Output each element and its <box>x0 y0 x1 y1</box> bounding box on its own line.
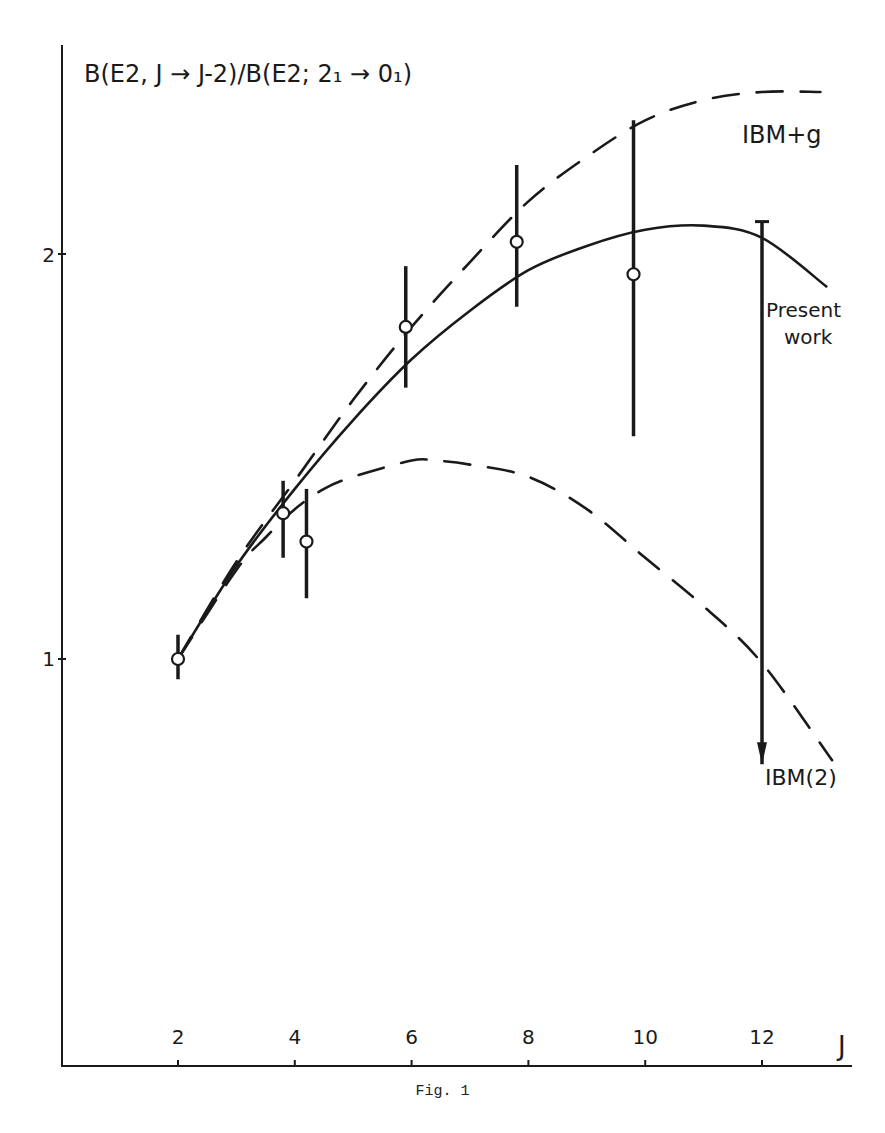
figure-caption: Fig. 1 <box>0 1083 885 1100</box>
curve-present-work <box>178 225 826 659</box>
data-point <box>172 653 184 665</box>
data-point <box>277 507 289 519</box>
label-work: work <box>784 325 833 349</box>
data-points <box>172 120 769 764</box>
x-tick-label: 2 <box>172 1025 185 1049</box>
curve-ibm-g <box>178 91 820 659</box>
axes <box>61 45 852 1066</box>
x-tick-label: 10 <box>632 1025 657 1049</box>
data-point <box>511 236 523 248</box>
chart: B(E2, J → J-2)/B(E2; 2₁ → 0₁) 2 1 246810… <box>0 0 885 1133</box>
label-ibm-g: IBM+g <box>742 121 822 149</box>
data-point <box>300 536 312 548</box>
arrow-down-icon <box>757 742 767 764</box>
x-tick-label: 4 <box>288 1025 301 1049</box>
x-tick-label: 8 <box>522 1025 535 1049</box>
label-ibm2: IBM(2) <box>765 765 837 790</box>
label-present: Present <box>766 298 841 322</box>
x-tick-label: 6 <box>405 1025 418 1049</box>
y-tick-label-2: 2 <box>42 243 55 267</box>
x-axis-label: J <box>836 1031 846 1061</box>
x-tick-label: 12 <box>749 1025 774 1049</box>
y-tick-label-1: 1 <box>42 647 55 671</box>
curves <box>178 91 832 760</box>
ticks <box>58 254 762 1066</box>
x-tick-labels: 24681012 <box>172 1025 775 1049</box>
chart-title: B(E2, J → J-2)/B(E2; 2₁ → 0₁) <box>84 60 412 88</box>
data-point <box>400 321 412 333</box>
data-point <box>628 268 640 280</box>
